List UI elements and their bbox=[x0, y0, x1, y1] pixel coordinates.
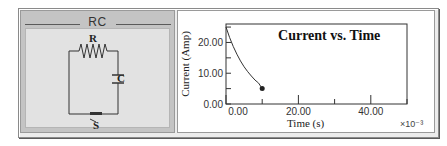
chart-panel: Current vs. Time Time (s) Current (Amp) … bbox=[177, 10, 435, 133]
y-tick-label: 20.00 bbox=[198, 37, 223, 48]
resistor-icon[interactable] bbox=[79, 44, 109, 58]
circuit-panel: RC R C S bbox=[20, 10, 175, 133]
y-tick-label: 0.00 bbox=[204, 99, 224, 110]
chart-title: Current vs. Time bbox=[278, 28, 380, 43]
data-point-marker bbox=[260, 86, 265, 91]
switch-label: S bbox=[93, 119, 99, 129]
x-tick-label: 40.00 bbox=[358, 106, 383, 117]
x-axis-label: Time (s) bbox=[287, 117, 325, 130]
y-axis-tick-labels: 0.0010.0020.00 bbox=[198, 37, 223, 110]
y-tick-label: 10.00 bbox=[198, 68, 223, 79]
rc-circuit-diagram: R C S bbox=[26, 29, 171, 129]
circuit-panel-title: RC bbox=[21, 15, 174, 29]
x-axis-multiplier: ×10⁻³ bbox=[400, 119, 423, 129]
circuit-area: R C S bbox=[25, 28, 170, 128]
current-vs-time-chart: Current vs. Time Time (s) Current (Amp) … bbox=[178, 11, 434, 132]
switch-icon[interactable] bbox=[90, 112, 102, 115]
capacitor-label: C bbox=[117, 72, 125, 84]
x-tick-label: 20.00 bbox=[286, 106, 311, 117]
resistor-label: R bbox=[89, 32, 98, 44]
x-axis-tick-labels: 0.0020.0040.00 bbox=[228, 106, 383, 117]
y-axis-label: Current (Amp) bbox=[179, 31, 192, 97]
x-tick-label: 0.00 bbox=[228, 106, 248, 117]
